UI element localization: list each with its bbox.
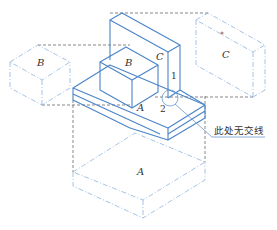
face-2-label: 2 — [160, 104, 166, 114]
projection-lines — [38, 13, 253, 172]
annotation-text: 此处无交线 — [214, 125, 264, 136]
exploded-part-a: A — [73, 133, 205, 218]
exploded-part-c: C — [196, 13, 265, 97]
exploded-b-label: B — [36, 57, 44, 68]
face-1-label: 1 — [171, 71, 177, 81]
annotation: 此处无交线 — [175, 104, 265, 137]
exploded-c-label: C — [222, 49, 230, 60]
exploded-a-label: A — [136, 166, 144, 177]
assembled-a-label: A — [136, 102, 144, 113]
assembled-b-label: B — [124, 57, 132, 68]
assembled-c-label: C — [156, 51, 164, 62]
diagram-canvas: B C A B C A — [0, 0, 277, 230]
marker-dot — [220, 31, 223, 34]
assembled-object: B C A 1 2 — [73, 13, 205, 140]
exploded-part-b: B — [10, 45, 70, 105]
